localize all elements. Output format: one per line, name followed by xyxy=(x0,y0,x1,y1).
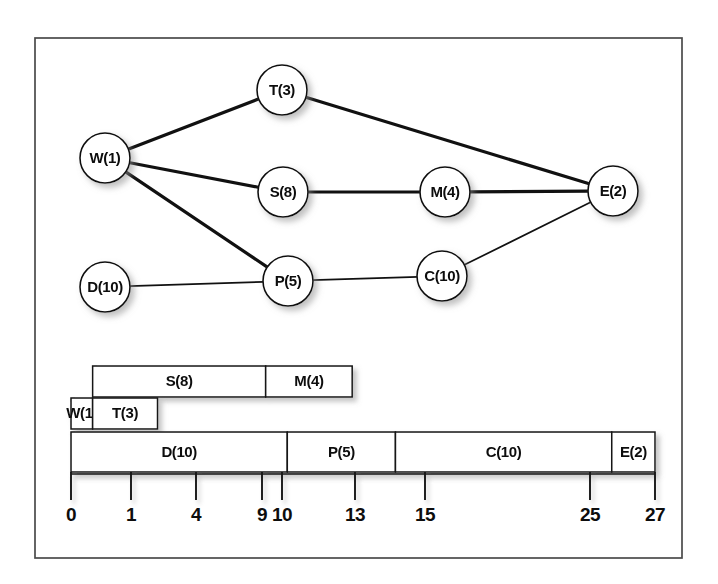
network-edge-d-p xyxy=(129,282,264,286)
network-edge-w-s xyxy=(129,163,260,188)
network-node-m[interactable]: M(4) xyxy=(420,167,470,217)
axis-tick-label-25: 25 xyxy=(580,504,601,525)
axis-tick-label-15: 15 xyxy=(415,504,436,525)
network-nodes: W(1)T(3)S(8)D(10)P(5)M(4)C(10)E(2) xyxy=(80,65,638,312)
gantt-bar-label-m4: M(4) xyxy=(294,372,324,389)
gantt-bar-label-e2: E(2) xyxy=(620,443,647,460)
axis-tick-label-0: 0 xyxy=(66,504,76,525)
network-edge-p-c xyxy=(312,277,418,280)
node-label-e: E(2) xyxy=(600,182,627,199)
axis-tick-label-4: 4 xyxy=(191,504,202,525)
axis-marks xyxy=(71,472,655,500)
network-edge-w-t xyxy=(127,99,259,150)
gantt-bars: S(8)M(4)W(1)T(3)D(10)P(5)C(10)E(2) xyxy=(66,366,655,472)
network-node-c[interactable]: C(10) xyxy=(417,251,467,301)
network-node-e[interactable]: E(2) xyxy=(588,166,638,216)
axis-tick-label-13: 13 xyxy=(345,504,365,525)
network-node-d[interactable]: D(10) xyxy=(80,262,130,312)
figure-frame xyxy=(35,38,682,558)
node-label-c: C(10) xyxy=(424,267,460,284)
node-label-p: P(5) xyxy=(275,272,302,289)
network-edge-m-e xyxy=(469,191,589,192)
gantt-row-2: D(10)P(5)C(10)E(2) xyxy=(71,432,655,472)
diagram-canvas: W(1)T(3)S(8)D(10)P(5)M(4)C(10)E(2) S(8)M… xyxy=(0,0,718,584)
gantt-bar-label-d10: D(10) xyxy=(161,443,197,460)
axis-tick-label-27: 27 xyxy=(645,504,665,525)
network-edge-c-e xyxy=(463,202,591,266)
gantt-axis: 01491013152527 xyxy=(66,472,665,525)
node-label-m: M(4) xyxy=(430,183,460,200)
axis-tick-label-9: 9 xyxy=(257,504,267,525)
network-node-s[interactable]: S(8) xyxy=(258,167,308,217)
gantt-bar-label-c10: C(10) xyxy=(486,443,522,460)
network-node-p[interactable]: P(5) xyxy=(263,256,313,306)
figure-container: W(1)T(3)S(8)D(10)P(5)M(4)C(10)E(2) S(8)M… xyxy=(0,0,718,584)
node-label-s: S(8) xyxy=(270,183,297,200)
axis-tick-label-10: 10 xyxy=(272,504,292,525)
axis-tick-label-1: 1 xyxy=(126,504,137,525)
network-node-w[interactable]: W(1) xyxy=(80,133,130,183)
node-label-t: T(3) xyxy=(269,81,295,98)
gantt-bar-label-t3: T(3) xyxy=(112,404,138,421)
network-edges xyxy=(125,97,592,286)
network-node-t[interactable]: T(3) xyxy=(257,65,307,115)
gantt-row-0: S(8)M(4) xyxy=(93,366,353,397)
gantt-bar-label-p5: P(5) xyxy=(328,443,355,460)
node-label-w: W(1) xyxy=(90,149,121,166)
gantt-row-1: W(1)T(3) xyxy=(66,398,157,429)
node-label-d: D(10) xyxy=(87,278,123,295)
gantt-bar-label-s8: S(8) xyxy=(166,372,193,389)
